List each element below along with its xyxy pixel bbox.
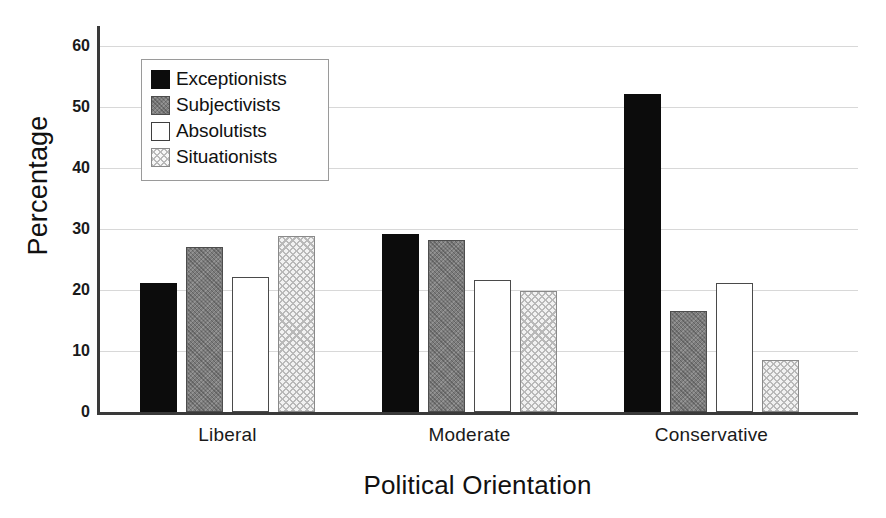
y-axis-line: [97, 26, 100, 414]
bar-situationists-conservative: [762, 360, 799, 412]
bar-exceptionists-conservative: [624, 94, 661, 412]
legend-item-subjectivists: Subjectivists: [151, 92, 321, 118]
y-axis-tick-label: 30: [46, 220, 90, 238]
bar-subjectivists-conservative: [670, 311, 707, 412]
x-axis-title: Political Orientation: [95, 470, 860, 501]
bar-chart: Percentage 0102030405060 LiberalModerate…: [0, 0, 886, 518]
x-axis-group-label-liberal: Liberal: [140, 424, 315, 446]
y-axis-tick-label: 50: [46, 98, 90, 116]
legend-item-exceptionists: Exceptionists: [151, 66, 321, 92]
bar-situationists-liberal: [278, 236, 315, 412]
bar-exceptionists-moderate: [382, 234, 419, 412]
legend-label: Absolutists: [176, 120, 267, 142]
bar-absolutists-liberal: [232, 277, 269, 412]
bar-absolutists-conservative: [716, 283, 753, 412]
bar-absolutists-moderate: [474, 280, 511, 412]
gridline: [100, 46, 858, 47]
y-axis-tick-label: 20: [46, 281, 90, 299]
legend-label: Situationists: [176, 146, 277, 168]
legend-swatch-exceptionists-icon: [151, 70, 170, 89]
y-axis-tick-label: 10: [46, 342, 90, 360]
x-axis-group-label-conservative: Conservative: [624, 424, 799, 446]
y-axis-tick-label: 0: [46, 403, 90, 421]
legend: ExceptionistsSubjectivistsAbsolutistsSit…: [141, 59, 329, 181]
gridline: [100, 229, 858, 230]
x-axis-line: [97, 412, 858, 415]
legend-label: Exceptionists: [176, 68, 287, 90]
legend-item-situationists: Situationists: [151, 144, 321, 170]
legend-swatch-subjectivists-icon: [151, 96, 170, 115]
y-axis-tick-label: 60: [46, 37, 90, 55]
bar-situationists-moderate: [520, 291, 557, 412]
x-axis-group-label-moderate: Moderate: [382, 424, 557, 446]
bar-subjectivists-liberal: [186, 247, 223, 412]
legend-swatch-situationists-icon: [151, 148, 170, 167]
bar-exceptionists-liberal: [140, 283, 177, 412]
legend-label: Subjectivists: [176, 94, 280, 116]
y-axis-tick-labels: 0102030405060: [40, 26, 90, 414]
bar-subjectivists-moderate: [428, 240, 465, 412]
legend-item-absolutists: Absolutists: [151, 118, 321, 144]
y-axis-tick-label: 40: [46, 159, 90, 177]
legend-swatch-absolutists-icon: [151, 122, 170, 141]
